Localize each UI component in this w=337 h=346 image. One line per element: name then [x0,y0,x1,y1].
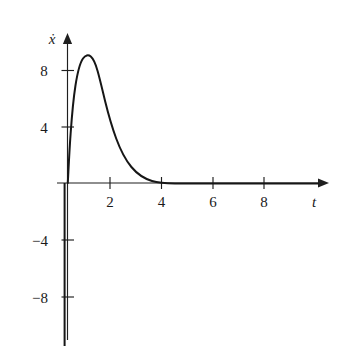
x-tick-label-8: 8 [260,194,268,210]
y-axis-label: ẋ [48,31,56,47]
y-axis-arrowhead [63,33,72,44]
x-axis-label: t [312,194,317,210]
plot-svg: 8 4 −4 −8 2 4 6 8 ẋ t [0,0,337,346]
y-tick-label-neg4: −4 [32,233,48,249]
y-tick-label-neg8: −8 [32,290,48,306]
x-tick-label-2: 2 [106,194,114,210]
y-tick-label-4: 4 [40,120,48,136]
y-tick-label-8: 8 [40,63,48,79]
chart-figure: 8 4 −4 −8 2 4 6 8 ẋ t [0,0,337,346]
x-tick-label-4: 4 [158,194,166,210]
curve-xdot [68,55,318,183]
x-axis-arrowhead [318,178,329,187]
x-tick-label-6: 6 [209,194,217,210]
